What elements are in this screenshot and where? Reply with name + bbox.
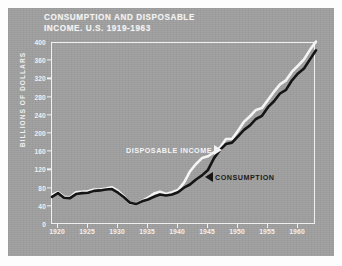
x-axis-tick-label: 1940: [162, 228, 192, 235]
x-axis-tick-label: 1955: [252, 228, 282, 235]
series-line-disposable-income: [52, 42, 316, 204]
chart-figure: CONSUMPTION AND DISPOSABLE INCOME. U.S. …: [0, 0, 342, 266]
y-axis-tick-label: 80: [20, 184, 46, 191]
x-axis-tick-label: 1930: [102, 228, 132, 235]
plot-area: [51, 42, 315, 224]
triangle-right-icon: [214, 145, 222, 155]
y-axis-tick-label: 40: [20, 202, 46, 209]
x-axis-tick-label: 1945: [192, 228, 222, 235]
chart-title: CONSUMPTION AND DISPOSABLE INCOME. U.S. …: [44, 13, 264, 34]
x-axis-tick-label: 1935: [132, 228, 162, 235]
x-axis-tick-label: 1920: [42, 228, 72, 235]
annotation-consumption: CONSUMPTION: [205, 172, 274, 182]
x-axis-tick-label: 1950: [222, 228, 252, 235]
triangle-left-icon: [205, 172, 213, 182]
x-axis-tick-label: 1960: [282, 228, 312, 235]
series-lines: [52, 43, 316, 225]
annotation-disposable-income: DISPOSABLE INCOME: [126, 145, 222, 155]
annotation-consumption-label: CONSUMPTION: [215, 173, 274, 182]
y-axis-tick-label: 0: [20, 221, 46, 228]
y-axis-tick-label: 120: [20, 166, 46, 173]
y-axis-label: BILLIONS OF DOLLARS: [19, 40, 26, 160]
x-axis-tick-label: 1925: [72, 228, 102, 235]
chart-title-line-2: INCOME. U.S. 1919-1963: [44, 24, 264, 35]
annotation-disposable-income-label: DISPOSABLE INCOME: [126, 146, 212, 155]
chart-title-line-1: CONSUMPTION AND DISPOSABLE: [44, 13, 195, 22]
